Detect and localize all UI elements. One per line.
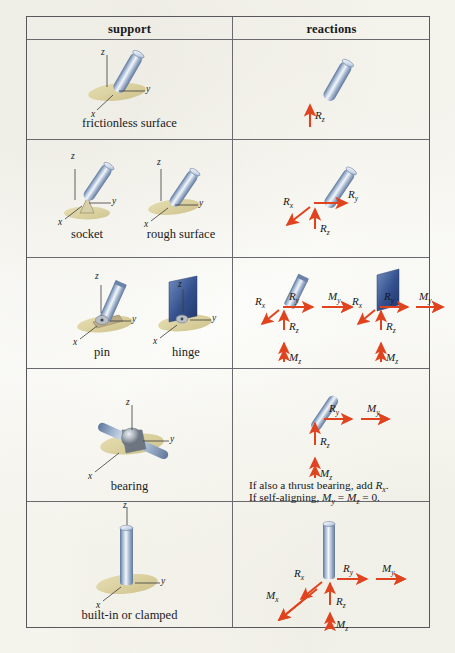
reaction-label-Rz-hinge: Rz	[386, 320, 396, 335]
caption-pin: pin	[55, 345, 149, 360]
reaction-label-Ry-bearing: Ry	[329, 402, 339, 417]
reaction-label-Rx-builtin: Rx	[294, 567, 304, 582]
reaction-label-Rx-row2: Rx	[283, 195, 293, 210]
axis-label-y: y	[146, 84, 150, 94]
rule-row3-bottom	[27, 368, 429, 369]
reaction-label-My-pin: My	[328, 290, 341, 305]
reaction-label-My-bearing: My	[367, 402, 380, 417]
axis-label-y-rough: y	[199, 198, 203, 208]
reaction-label-Rz-bearing: Rz	[320, 435, 330, 450]
axis-label-z: z	[101, 47, 105, 57]
caption-hinge: hinge	[137, 345, 235, 360]
figure-pin	[76, 280, 133, 339]
reaction-group-row3-hinge	[358, 269, 443, 362]
axis-label-z-socket: z	[71, 151, 75, 161]
reaction-label-Mz-builtin: Mz	[336, 618, 348, 633]
axis-label-y-builtin: y	[161, 576, 165, 586]
axis-label-y-socket: y	[112, 196, 116, 206]
header-reactions: reactions	[232, 22, 431, 37]
reaction-label-Ry-pin: Ry	[289, 290, 299, 305]
caption-socket: socket	[37, 227, 137, 242]
axis-label-z-hinge: z	[178, 279, 182, 289]
figure-bearing	[95, 405, 170, 472]
reaction-label-My-hinge: My	[419, 290, 432, 305]
reaction-label-Rx-hinge: Rx	[352, 295, 362, 310]
caption-rough-surface: rough surface	[125, 227, 237, 242]
column-divider	[232, 17, 233, 627]
figure-rough-surface	[147, 167, 201, 221]
header-support: support	[27, 22, 232, 37]
reaction-label-Ry-row2: Ry	[348, 188, 358, 203]
reaction-label-Rz-pin: Rz	[289, 320, 299, 335]
figure-canvas	[27, 17, 431, 629]
reaction-label-Ry-builtin: Ry	[343, 562, 353, 577]
reaction-label-Mz-hinge: Mz	[386, 351, 398, 366]
caption-bearing: bearing	[27, 479, 232, 494]
rule-row1-bottom	[27, 139, 429, 140]
note-self-aligning: If self-aligning, My = Mz = 0.	[249, 491, 380, 506]
figure-hinge	[157, 276, 212, 338]
figure-socket	[64, 161, 115, 220]
rule-header-bottom	[27, 39, 429, 40]
reaction-label-Mz-pin: Mz	[289, 351, 301, 366]
axis-label-z-pin: z	[95, 271, 99, 281]
axis-label-y-pin: y	[132, 314, 136, 324]
reaction-label-Rz-row2: Rz	[320, 222, 330, 237]
reaction-label-Ry-hinge: Ry	[384, 290, 394, 305]
figure-built-in	[95, 507, 160, 601]
axis-label-y-hinge: y	[212, 313, 216, 323]
caption-built-in-clamped: built-in or clamped	[27, 608, 232, 623]
axis-label-z-builtin: z	[123, 500, 127, 510]
reaction-label-Rx-pin: Rx	[255, 295, 265, 310]
figure-frictionless-surface	[87, 49, 146, 110]
axis-label-x-socket: x	[58, 217, 62, 227]
reaction-group-row3-pin	[262, 274, 352, 362]
reaction-label-Mx-builtin: Mx	[266, 589, 279, 604]
axis-label-y-bearing: y	[170, 434, 174, 444]
caption-frictionless-surface: frictionless surface	[27, 116, 232, 131]
reaction-label-My-builtin: My	[382, 562, 395, 577]
reaction-label-Rz-row1: Rz	[315, 109, 325, 124]
axis-label-z-rough: z	[157, 157, 161, 167]
support-reactions-table: support reactions z y x frictionless sur…	[26, 16, 430, 628]
rule-row2-bottom	[27, 257, 429, 258]
axis-label-z-bearing: z	[126, 397, 130, 407]
reaction-label-Rz-builtin: Rz	[336, 595, 346, 610]
